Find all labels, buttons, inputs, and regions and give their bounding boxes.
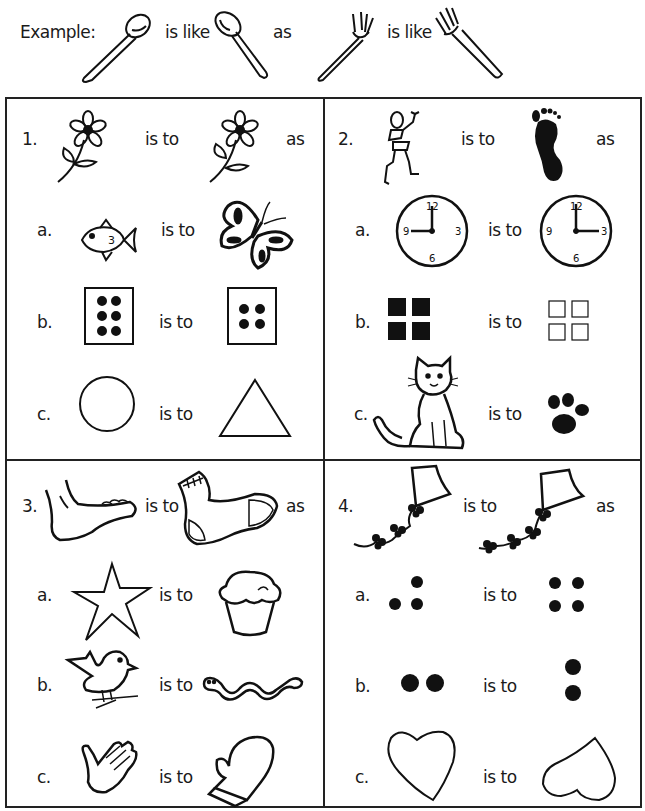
is-to-text: is to — [159, 404, 193, 424]
fish-icon: 3 — [78, 218, 138, 262]
two-dots-vertical-icon — [563, 658, 583, 704]
is-to-text: is to — [461, 129, 495, 149]
clock-3-oclock-icon: 12 3 6 9 — [539, 194, 613, 268]
svg-text:3: 3 — [455, 226, 461, 237]
circle-icon — [78, 375, 136, 433]
triangle-icon — [218, 378, 292, 438]
option-letter-c: c. — [354, 404, 368, 424]
kite-three-bows-icon — [352, 466, 452, 550]
foot-icon — [42, 480, 140, 542]
flower-icon — [48, 108, 108, 188]
option-letter-a: a. — [355, 585, 370, 605]
is-to-text: is to — [159, 585, 193, 605]
bird-icon — [66, 650, 142, 710]
problem-number: 3. — [22, 496, 37, 516]
relation-text: is like — [165, 22, 210, 42]
three-dots-icon — [387, 574, 427, 614]
horizontal-divider — [5, 459, 642, 461]
heart-icon — [387, 728, 457, 802]
option-letter-c: c. — [37, 404, 51, 424]
as-text: as — [286, 129, 304, 149]
four-empty-squares-icon — [548, 300, 590, 342]
is-to-text: is to — [488, 312, 522, 332]
is-to-text: is to — [488, 220, 522, 240]
vertical-divider — [323, 97, 325, 808]
option-letter-a: a. — [37, 220, 52, 240]
svg-text:9: 9 — [403, 226, 409, 237]
relation-text-2: is like — [387, 22, 432, 42]
cat-icon — [372, 358, 468, 454]
die-four-dots-icon — [227, 287, 277, 345]
fork-mirrored-icon — [430, 4, 506, 80]
option-letter-a: a. — [355, 220, 370, 240]
kite-four-bows-icon — [477, 470, 587, 556]
option-letter-b: b. — [355, 676, 370, 696]
spoon-icon — [78, 8, 158, 84]
as-text: as — [286, 496, 304, 516]
option-letter-b: b. — [355, 312, 370, 332]
is-to-text: is to — [159, 312, 193, 332]
option-letter-b: b. — [37, 675, 52, 695]
flower-flipped-icon — [200, 108, 260, 188]
svg-text:6: 6 — [429, 253, 435, 264]
mitten-icon — [205, 734, 275, 806]
option-letter-a: a. — [37, 585, 52, 605]
connector-text: as — [273, 22, 291, 42]
option-letter-b: b. — [37, 312, 52, 332]
is-to-text: is to — [161, 220, 195, 240]
spoon-mirrored-icon — [212, 8, 272, 80]
is-to-text: is to — [483, 676, 517, 696]
is-to-text: is to — [159, 675, 193, 695]
clock-9-oclock-icon: 12 3 6 9 — [395, 194, 469, 268]
die-six-dots-icon — [84, 287, 134, 345]
heart-upside-down-icon — [541, 736, 617, 802]
svg-text:9: 9 — [546, 226, 552, 237]
fork-icon — [315, 6, 379, 82]
option-letter-c: c. — [37, 767, 51, 787]
worm-icon — [202, 672, 304, 706]
is-to-text: is to — [159, 767, 193, 787]
svg-text:6: 6 — [573, 253, 579, 264]
cupcake-icon — [216, 568, 284, 638]
footprint-icon — [530, 108, 574, 184]
is-to-text: is to — [145, 496, 179, 516]
stick-figure-icon — [383, 110, 425, 190]
svg-text:3: 3 — [108, 234, 115, 247]
sock-icon — [177, 470, 283, 546]
butterfly-icon — [212, 196, 298, 276]
star-icon — [72, 562, 152, 642]
is-to-text: is to — [483, 767, 517, 787]
two-dots-horizontal-icon — [400, 672, 446, 694]
is-to-text: is to — [145, 129, 179, 149]
four-dots-icon — [547, 575, 587, 615]
hand-icon — [80, 740, 138, 796]
is-to-text: is to — [483, 585, 517, 605]
paw-print-icon — [546, 392, 592, 436]
problem-number: 4. — [338, 496, 353, 516]
is-to-text: is to — [488, 404, 522, 424]
as-text: as — [596, 496, 614, 516]
problem-number: 2. — [338, 129, 353, 149]
as-text: as — [596, 129, 614, 149]
option-letter-c: c. — [355, 767, 369, 787]
problem-number: 1. — [22, 129, 37, 149]
svg-text:3: 3 — [601, 226, 607, 237]
four-filled-squares-icon — [388, 298, 432, 342]
